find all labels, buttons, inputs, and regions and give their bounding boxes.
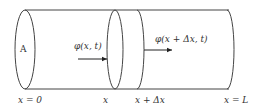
flux-in-label: φ(x, t) [74, 41, 102, 51]
axis-label-end: x = L [224, 95, 248, 105]
axis-label-slice-right: x + Δx [135, 95, 165, 105]
axis-label-slice-left: x [103, 95, 108, 105]
cylinder-diagram: A φ(x, t) φ(x + Δx, t) x = 0 x x + Δx x … [0, 0, 259, 110]
area-label: A [19, 44, 27, 54]
slice-x-plus-dx-arc [137, 10, 144, 89]
axis-label-start: x = 0 [18, 95, 42, 105]
slice-x-ellipse [107, 10, 123, 89]
right-end-arc [227, 10, 234, 89]
flux-out-label: φ(x + Δx, t) [155, 34, 208, 44]
